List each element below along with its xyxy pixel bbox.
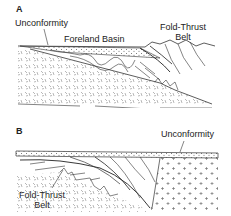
panel-b-unconformity-label: Unconformity	[161, 129, 214, 139]
panel-b-letter: B	[16, 126, 23, 136]
panel-a-cross-section	[0, 0, 231, 108]
panel-b-fold-thrust-line1: Fold-Thrust	[12, 190, 72, 200]
panel-b-fold-thrust-belt-label: Fold-Thrust Belt	[12, 190, 72, 210]
panel-b-fold-thrust-line2: Belt	[12, 200, 72, 210]
